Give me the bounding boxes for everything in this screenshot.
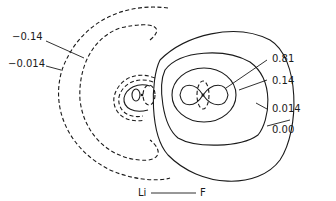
label-minus-0-014: −0.014 [8,58,45,69]
contour-diagram: −0.14 −0.014 0.81 0.14 0.014 0.00 Li F [0,0,336,201]
f-nucleus-dot [202,94,205,97]
contour-minus-0-14 [80,25,158,160]
contour-0-014 [162,53,268,145]
atom-label-f: F [200,187,206,198]
label-0-81: 0.81 [272,53,294,64]
leader-0-014 [256,103,267,109]
leader-minus-0-014 [46,66,61,70]
label-0-00: 0.00 [272,124,294,135]
label-minus-0-14: −0.14 [12,31,43,42]
contour-0-81-right [203,85,228,105]
label-0-014: 0.014 [272,103,301,114]
leader-minus-0-14 [46,41,84,58]
li-core-contour [132,89,140,101]
label-0-14: 0.14 [272,75,294,86]
contour-li-dashed-1 [114,75,155,121]
leader-0-14 [239,80,267,90]
atom-label-li: Li [138,187,146,198]
contour-0-81-left [180,85,203,105]
li-nucleus-dot [141,94,144,97]
